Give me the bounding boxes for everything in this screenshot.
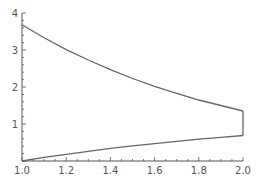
upper-curve [22,25,243,111]
lower-curve [22,136,243,162]
x-tick-label: 1.0 [14,165,30,176]
y-tick-label: 1 [12,119,18,130]
y-tick-label: 3 [12,45,18,56]
y-tick-label: 4 [12,8,18,19]
chart: 1.01.21.41.61.82.01234 [0,0,265,180]
x-tick-label: 1.8 [191,165,207,176]
axes: 1.01.21.41.61.82.01234 [12,8,251,176]
x-tick-label: 2.0 [235,165,251,176]
plot-series [22,25,243,161]
x-tick-label: 1.4 [102,165,118,176]
y-tick-label: 2 [12,82,18,93]
x-tick-label: 1.6 [147,165,163,176]
x-tick-label: 1.2 [58,165,74,176]
